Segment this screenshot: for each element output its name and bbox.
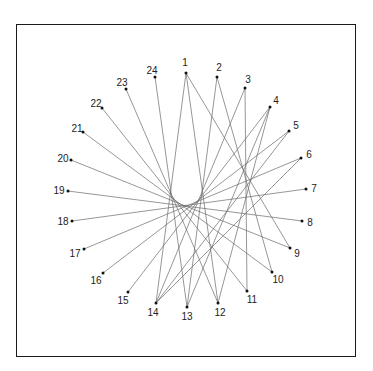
point-14	[155, 302, 158, 305]
point-label-10: 10	[272, 274, 284, 285]
point-label-9: 9	[294, 248, 300, 259]
chord-3-14	[156, 88, 245, 303]
point-11	[246, 290, 249, 293]
point-6	[300, 157, 303, 160]
point-4	[269, 106, 272, 109]
point-3	[244, 87, 247, 90]
string-art-diagram: 123456789101112131415161718192021222324	[0, 0, 373, 371]
point-label-11: 11	[247, 294, 258, 305]
point-label-24: 24	[146, 65, 158, 76]
point-9	[289, 247, 292, 250]
chord-2-10	[217, 77, 272, 272]
point-label-4: 4	[273, 95, 279, 106]
point-13	[186, 306, 189, 309]
point-15	[127, 291, 130, 294]
points	[67, 72, 308, 309]
point-label-18: 18	[57, 216, 69, 227]
point-1	[185, 72, 188, 75]
point-label-15: 15	[117, 295, 129, 306]
point-19	[67, 190, 70, 193]
point-label-20: 20	[57, 153, 69, 164]
chord-4-13	[187, 107, 270, 307]
chord-4-12	[218, 107, 270, 303]
chord-3-11	[245, 88, 247, 291]
point-17	[83, 248, 86, 251]
point-label-6: 6	[306, 149, 312, 160]
point-5	[288, 130, 291, 133]
point-label-13: 13	[181, 311, 193, 322]
point-label-17: 17	[69, 248, 81, 259]
point-label-23: 23	[116, 77, 128, 88]
point-label-2: 2	[216, 62, 222, 73]
point-8	[301, 220, 304, 223]
point-label-3: 3	[245, 74, 251, 85]
point-labels: 123456789101112131415161718192021222324	[53, 57, 317, 322]
point-18	[71, 220, 74, 223]
point-label-5: 5	[293, 120, 299, 131]
point-label-22: 22	[90, 98, 102, 109]
point-2	[216, 76, 219, 79]
point-label-21: 21	[71, 123, 83, 134]
chord-6-17	[84, 158, 301, 249]
point-20	[70, 159, 73, 162]
point-label-14: 14	[147, 307, 159, 318]
point-16	[102, 272, 105, 275]
point-7	[305, 188, 308, 191]
point-label-7: 7	[311, 183, 317, 194]
point-label-19: 19	[53, 185, 65, 196]
point-label-12: 12	[214, 307, 226, 318]
point-label-1: 1	[182, 57, 188, 68]
point-label-16: 16	[90, 275, 102, 286]
point-label-8: 8	[307, 217, 313, 228]
point-12	[217, 302, 220, 305]
